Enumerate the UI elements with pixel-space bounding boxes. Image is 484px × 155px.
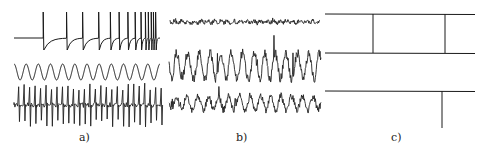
- panel-a: [14, 12, 163, 127]
- panel-a-label: a): [79, 131, 90, 144]
- trace-b-low-amplitude: [170, 18, 320, 25]
- trace-c-line-bottom: [325, 91, 475, 92]
- trace-a-sinusoid: [14, 64, 160, 80]
- trace-b-medium-amplitude: [169, 86, 321, 113]
- trace-b-high-amplitude: [169, 35, 321, 82]
- trace-c-line-middle: [325, 53, 475, 54]
- trace-a-regular-spiking: [14, 83, 163, 127]
- trace-c-line-top: [325, 14, 475, 15]
- panel-c-label: c): [391, 131, 401, 144]
- panel-b-label: b): [236, 131, 247, 144]
- panel-b: [169, 18, 321, 113]
- panel-c: [325, 14, 475, 128]
- trace-a-bursting-spike-train: [14, 12, 160, 50]
